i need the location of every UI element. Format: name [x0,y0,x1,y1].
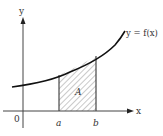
bound-a-label: a [56,118,61,128]
x-axis-arrow-icon [127,109,134,114]
y-axis-label: y [18,6,25,16]
origin-label: 0 [14,114,20,124]
region-a-hatched [59,56,96,111]
y-axis-arrow-icon [21,17,26,24]
region-a-label: A [74,87,82,97]
area-under-curve-diagram: y x 0 a b A y = f(x) [0,0,163,136]
x-axis-label: x [136,106,141,116]
bound-b-label: b [93,118,99,128]
curve-label: y = f(x) [125,28,158,38]
